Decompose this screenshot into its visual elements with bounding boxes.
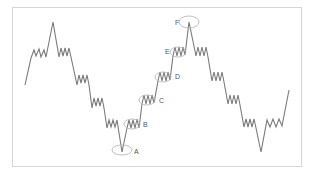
marker-label-b: B: [143, 121, 148, 128]
marker-a: A: [112, 145, 139, 155]
marker-f: F: [175, 16, 199, 28]
wave-markers: ABCDEF: [112, 16, 199, 155]
marker-label-c: C: [159, 97, 164, 104]
marker-label-e: E: [165, 48, 170, 55]
price-wave-line: [25, 22, 289, 152]
marker-label-d: D: [175, 73, 180, 80]
marker-label-f: F: [175, 19, 179, 26]
marker-label-a: A: [134, 148, 139, 155]
wave-diagram: ABCDEF: [0, 0, 311, 175]
